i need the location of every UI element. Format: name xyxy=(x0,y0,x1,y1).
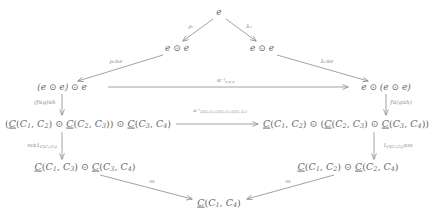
label-f-g-h-right: f⊙(g⊙h) xyxy=(390,100,411,105)
label-identity-odot-m-tail: ⊙m xyxy=(404,142,413,148)
label-m-odot-identity: m⊙1C(C₃,C₄) xyxy=(27,143,57,149)
node-bottom-hom: C(C1, C4) xyxy=(197,198,241,209)
label-identity-odot-m: 1C(C₁,C₂)⊙m xyxy=(383,143,413,149)
label-m-odot-identity-symbol: m⊙1 xyxy=(27,142,40,148)
label-identity-odot-m-subscript: C(C₁,C₂) xyxy=(387,144,404,149)
label-m-odot-identity-subscript: C(C₃,C₄) xyxy=(40,144,57,149)
label-alpha-inverse-top: α⁻¹e,e,e xyxy=(217,78,235,84)
node-mid-right-ee: e ⊙ e xyxy=(250,44,274,53)
edge-m-left xyxy=(100,175,192,199)
label-m-right: m xyxy=(286,179,291,184)
node-left-hom-triple: (C(C1, C2) ⊙ C(C2, C3)) ⊙ C(C3, C4) xyxy=(5,119,171,130)
node-left-hom-pair: C(C1, C3) ⊙ C(C3, C4) xyxy=(34,162,135,173)
label-alpha-inverse-hom-symbol: α⁻¹ xyxy=(193,108,200,113)
label-rho-e: ρₑ xyxy=(188,24,193,29)
node-right-e-e-e: e ⊙ (e ⊙ e) xyxy=(361,83,411,92)
node-right-hom-pair: C(C1, C2) ⊙ C(C2, C4) xyxy=(297,162,398,173)
diagram-canvas: e e ⊙ e e ⊙ e (e ⊙ e) ⊙ e e ⊙ (e ⊙ e) (C… xyxy=(0,0,438,218)
label-lambda-e-odot-e: λₑ⊙e xyxy=(321,59,334,64)
label-alpha-inverse-hom-subscript: C(C₁,C₂),C(C₂,C₃),C(C₃,C₄) xyxy=(200,110,246,114)
label-m-left: m xyxy=(150,179,155,184)
edge-lambda-e xyxy=(226,19,256,41)
edge-rho-e xyxy=(183,19,213,41)
node-top-e: e xyxy=(216,8,221,17)
label-alpha-inverse-hom: α⁻¹C(C₁,C₂),C(C₂,C₃),C(C₃,C₄) xyxy=(193,109,247,114)
node-mid-left-ee: e ⊙ e xyxy=(165,44,189,53)
label-rho-e-odot-e: ρₑ⊙e xyxy=(110,59,122,64)
label-lambda-e: λₑ xyxy=(246,24,251,29)
node-right-hom-triple: C(C1, C2) ⊙ (C(C2, C3) ⊙ C(C3, C4)) xyxy=(263,119,429,130)
label-f-g-h-left: (f⊙g)⊙h xyxy=(34,100,55,105)
node-left-e-e-e: (e ⊙ e) ⊙ e xyxy=(37,83,87,92)
